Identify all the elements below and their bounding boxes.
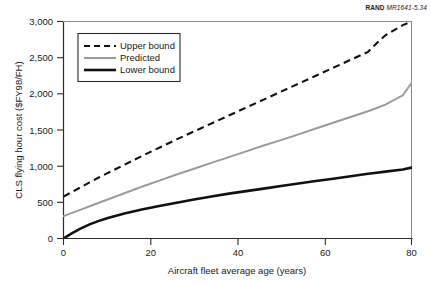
y-tick-label-3000: 3,000 xyxy=(29,16,53,27)
legend-label-lower-bound: Lower bound xyxy=(120,64,175,75)
y-axis-title: CLS flying hour cost ($FY98/FH) xyxy=(13,61,24,198)
legend: Upper bound Predicted Lower bound xyxy=(78,34,180,82)
y-tick-label-1000: 1,000 xyxy=(29,161,53,172)
chart-figure: RAND MR1641-5.34 3,000 2,500 xyxy=(0,0,431,284)
legend-label-upper-bound: Upper bound xyxy=(120,40,175,51)
x-tick-label-60: 60 xyxy=(320,247,331,258)
x-tick-label-40: 40 xyxy=(233,247,244,258)
y-tick-label-500: 500 xyxy=(37,197,53,208)
x-axis-ticks xyxy=(64,239,412,246)
series-line-lower-bound xyxy=(64,168,412,239)
series-line-predicted xyxy=(64,83,412,216)
x-tick-label-80: 80 xyxy=(406,247,417,258)
x-axis-tick-labels: 0 20 40 60 80 xyxy=(61,247,417,258)
cls-flying-hour-cost-line-chart: 3,000 2,500 2,000 1,500 1,000 500 0 0 20… xyxy=(0,0,431,284)
legend-label-predicted: Predicted xyxy=(120,52,160,63)
rand-report-number: MR1641-5.34 xyxy=(387,4,427,11)
rand-credit-label: RAND MR1641-5.34 xyxy=(365,5,427,12)
y-tick-label-2000: 2,000 xyxy=(29,88,53,99)
y-tick-label-0: 0 xyxy=(48,233,53,244)
y-tick-label-1500: 1,500 xyxy=(29,125,53,136)
x-tick-label-0: 0 xyxy=(61,247,66,258)
x-tick-label-20: 20 xyxy=(146,247,157,258)
rand-wordmark: RAND xyxy=(365,4,384,11)
y-axis-ticks xyxy=(57,22,63,239)
y-tick-label-2500: 2,500 xyxy=(29,52,53,63)
x-axis-title: Aircraft fleet average age (years) xyxy=(168,265,306,276)
y-axis-tick-labels: 3,000 2,500 2,000 1,500 1,000 500 0 xyxy=(29,16,53,244)
